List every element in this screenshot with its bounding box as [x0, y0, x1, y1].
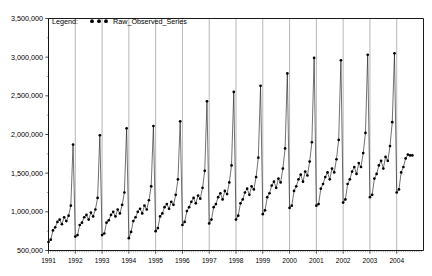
data-point: [159, 215, 162, 218]
data-point: [199, 197, 202, 200]
data-point: [400, 171, 403, 174]
data-point: [248, 193, 251, 196]
data-point: [132, 220, 135, 223]
legend-marker-dot-3: [104, 19, 108, 23]
data-point: [208, 222, 211, 225]
x-tick-label-1998: 1998: [229, 257, 244, 264]
data-point: [384, 156, 387, 159]
data-point: [81, 221, 84, 224]
x-tick-label-1994: 1994: [122, 257, 137, 264]
data-point: [114, 215, 117, 218]
data-point: [386, 159, 389, 162]
x-tick-label-1997: 1997: [202, 257, 217, 264]
data-point: [192, 197, 195, 200]
data-point: [121, 204, 124, 207]
data-point: [61, 223, 64, 226]
data-point: [47, 241, 50, 244]
data-point: [335, 158, 338, 161]
data-point: [308, 160, 311, 163]
data-point: [311, 141, 314, 144]
y-axis-labels: 500,0001,000,0001,500,0002,000,0002,500,…: [11, 14, 43, 255]
data-point: [105, 221, 108, 224]
data-point: [253, 188, 256, 191]
data-point: [128, 237, 131, 240]
x-tick-label-1996: 1996: [175, 257, 190, 264]
data-point: [197, 194, 200, 197]
data-point: [270, 184, 273, 187]
data-point: [179, 120, 182, 123]
x-tick-label-1991: 1991: [41, 257, 56, 264]
data-point: [375, 173, 378, 176]
data-point: [295, 185, 298, 188]
data-point: [362, 152, 365, 155]
x-tick-label-1995: 1995: [148, 257, 163, 264]
data-point: [172, 204, 175, 207]
data-point: [284, 147, 287, 150]
data-point: [317, 203, 320, 206]
data-point: [259, 84, 262, 87]
data-point: [103, 232, 106, 235]
data-point: [353, 166, 356, 169]
data-point: [134, 216, 137, 219]
data-point: [279, 181, 282, 184]
data-point: [228, 181, 231, 184]
data-point: [288, 207, 291, 210]
data-point: [203, 170, 206, 173]
data-point: [168, 207, 171, 210]
data-point: [382, 167, 385, 170]
data-point: [239, 202, 242, 205]
data-point: [282, 167, 285, 170]
x-tick-label-2004: 2004: [389, 257, 404, 264]
data-point: [181, 224, 184, 227]
y-tick-label-1500000: 1,500,000: [11, 169, 43, 178]
data-point: [188, 206, 191, 209]
y-tick-label-2500000: 2,500,000: [11, 91, 43, 100]
data-point: [210, 218, 213, 221]
data-point: [391, 121, 394, 124]
y-tick-label-3000000: 3,000,000: [11, 53, 43, 62]
x-tick-label-2000: 2000: [282, 257, 297, 264]
data-point: [342, 201, 345, 204]
chart-canvas: 500,0001,000,0001,500,0002,000,0002,500,…: [0, 0, 432, 276]
data-point: [54, 226, 57, 229]
data-point: [273, 180, 276, 183]
data-point: [250, 185, 253, 188]
data-point: [304, 170, 307, 173]
data-point: [393, 52, 396, 55]
x-tick-label-1993: 1993: [95, 257, 110, 264]
data-point: [261, 213, 264, 216]
data-point: [101, 234, 104, 237]
data-point: [389, 145, 392, 148]
data-point: [302, 180, 305, 183]
data-point: [235, 218, 238, 221]
data-point: [223, 190, 226, 193]
data-point: [219, 192, 222, 195]
data-point: [110, 214, 113, 217]
data-point: [369, 196, 372, 199]
data-point: [206, 100, 209, 103]
data-point: [360, 166, 363, 169]
data-point: [112, 210, 115, 213]
data-point: [299, 173, 302, 176]
data-point: [63, 216, 66, 219]
data-point: [130, 231, 133, 234]
data-point: [293, 190, 296, 193]
data-point: [402, 166, 405, 169]
data-point: [322, 183, 325, 186]
x-tick-label-1992: 1992: [68, 257, 83, 264]
data-point: [49, 238, 52, 241]
data-point: [143, 204, 146, 207]
data-point: [340, 59, 343, 62]
data-point: [348, 178, 351, 181]
data-point: [346, 183, 349, 186]
data-point: [398, 188, 401, 191]
x-tick-label-2001: 2001: [309, 257, 324, 264]
data-point: [371, 193, 374, 196]
data-point: [212, 206, 215, 209]
series-line-Raw_Observed_Series: [49, 53, 413, 242]
legend-series-name: Raw_Observed_Series: [113, 17, 187, 26]
y-tick-label-2000000: 2,000,000: [11, 130, 43, 139]
data-point: [157, 227, 160, 230]
data-point: [85, 214, 88, 217]
data-point: [313, 57, 316, 60]
